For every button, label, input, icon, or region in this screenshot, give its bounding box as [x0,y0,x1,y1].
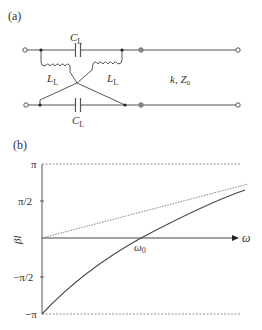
ytick-pi: π [31,158,37,170]
panel-a: (a) CL CL LL LL [8,9,240,129]
panel-a-label: (a) [8,9,21,23]
y-axis-label: βl [11,235,23,245]
line-params-label: k, Z0 [170,73,191,87]
reference-lines [42,164,240,314]
inductor-right-label: LL [106,72,118,87]
port-dots [139,48,144,108]
panel-b-label: (b) [13,138,27,152]
x-axis-arrow-icon [232,235,239,241]
figure-canvas: (a) CL CL LL LL [0,0,262,330]
ytick-pi-half: π/2 [18,195,32,207]
capacitor-bottom-label: CL [72,114,84,129]
ytick-neg-pi-half: −π/2 [13,271,33,283]
omega-zero-label: ω0 [134,241,146,255]
inductor-left-label: LL [46,72,58,87]
capacitor-bottom-icon [76,98,81,112]
capacitor-top-label: CL [70,31,82,46]
ytick-neg-pi: −π [25,308,37,320]
panel-b: (b) π π/2 −π/2 −π βl ω ω0 [11,138,250,320]
linear-phase-line [42,184,248,238]
x-axis-label: ω [242,231,250,245]
